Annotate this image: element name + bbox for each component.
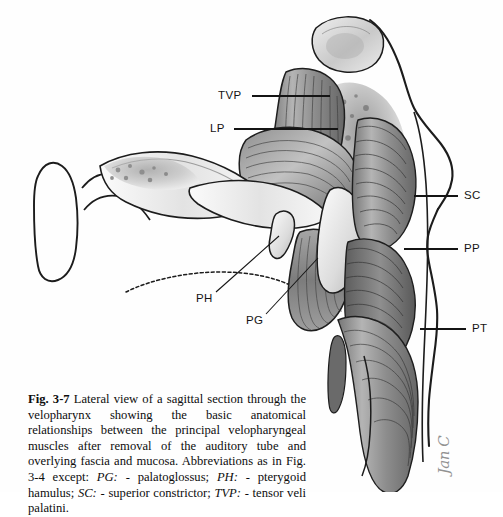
label-sc: SC — [464, 190, 481, 202]
label-lp: LP — [210, 123, 225, 135]
accessory-strip — [328, 336, 346, 413]
figure-caption: Fig. 3-7 Lateral view of a sagittal sect… — [28, 392, 306, 517]
tongue-dorsum-serrated — [126, 272, 292, 292]
superior-constrictor-muscle — [352, 118, 416, 250]
label-pt: PT — [472, 323, 488, 335]
caption-abbr-tvp: TVP: — [214, 486, 241, 500]
sphenoid-shadow — [326, 33, 364, 59]
uvula-outline — [34, 163, 78, 281]
sphenoid-body-group — [312, 17, 383, 72]
ph-hook — [269, 211, 294, 258]
artist-signature: Jan C — [413, 435, 475, 475]
label-pg: PG — [246, 315, 263, 327]
caption-abbr-pg-def: - palatoglossus; — [118, 470, 217, 484]
accessory-strip-group — [328, 336, 346, 413]
sc-body — [352, 118, 416, 250]
caption-abbr-ph: PH: — [217, 470, 238, 484]
caption-abbr-sc: SC: — [78, 486, 97, 500]
label-ph: PH — [196, 293, 213, 305]
pterygoid-hamulus-group — [269, 211, 294, 258]
label-tvp: TVP — [218, 90, 242, 102]
label-pp: PP — [464, 243, 480, 255]
caption-abbr-pg: PG: — [97, 470, 118, 484]
caption-figure-number: Fig. 3-7 — [28, 392, 70, 406]
leader-line-ph — [216, 236, 279, 292]
pharyngeal-wall-contour — [427, 209, 438, 446]
caption-abbr-sc-def: - superior constrictor; — [97, 486, 215, 500]
